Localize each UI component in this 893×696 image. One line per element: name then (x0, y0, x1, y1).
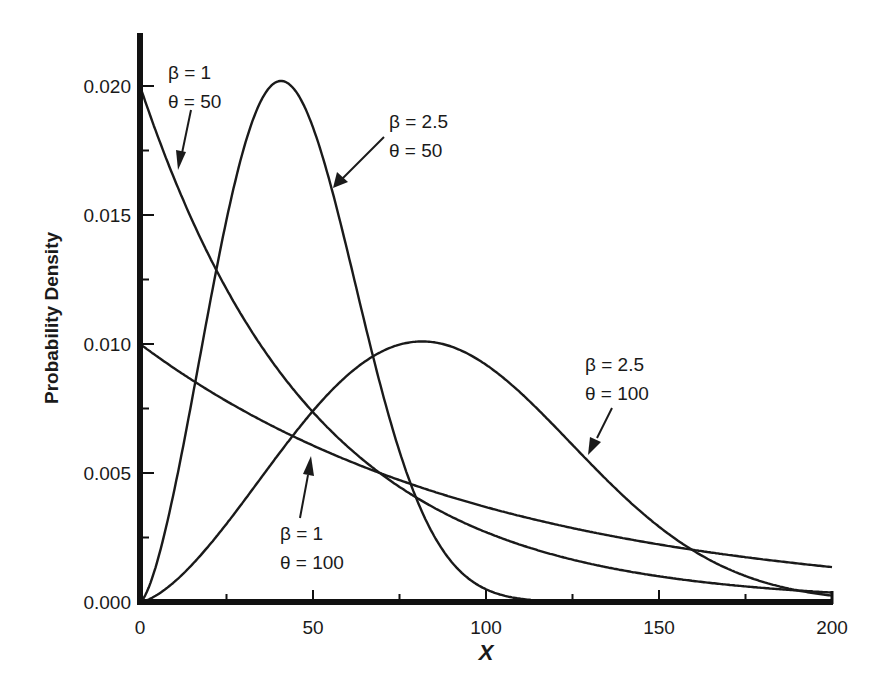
annotation-line2: θ = 50 (168, 91, 221, 112)
annotation-line1: β = 1 (280, 523, 323, 544)
x-axis-label: X (477, 640, 495, 665)
annotation-line1: β = 2.5 (585, 354, 644, 375)
x-tick-label: 150 (643, 617, 675, 638)
arrow-shaft (181, 110, 191, 158)
annotation-beta1-theta100: β = 1 θ = 100 (280, 456, 344, 573)
annotation-beta2.5-theta100: β = 2.5 θ = 100 (585, 354, 649, 455)
weibull-pdf-chart: 050100150200 0.0000.0050.0100.0150.020 X… (0, 0, 893, 696)
arrow-head-icon (588, 437, 601, 455)
arrow-shaft (341, 137, 384, 180)
curves (140, 81, 832, 602)
x-tick-label: 50 (302, 617, 323, 638)
annotation-line2: θ = 50 (389, 140, 442, 161)
x-tick-labels: 050100150200 (135, 617, 848, 638)
annotation-line2: θ = 100 (585, 383, 649, 404)
annotation-line1: β = 2.5 (389, 111, 448, 132)
y-tick-label: 0.020 (83, 76, 131, 97)
annotation-line2: θ = 100 (280, 552, 344, 573)
axes (137, 33, 833, 604)
x-tick-label: 0 (135, 617, 146, 638)
curve-beta1-theta100 (140, 344, 832, 567)
annotation-beta1-theta50: β = 1 θ = 50 (168, 62, 221, 170)
y-tick-label: 0.015 (83, 205, 131, 226)
y-tick-label: 0.005 (83, 463, 131, 484)
arrow-head-icon (176, 150, 186, 170)
arrow-shaft (597, 408, 612, 438)
y-axis-label: Probability Density (41, 232, 62, 405)
curve-beta1-theta50 (140, 86, 832, 593)
curve-beta2.5-theta100 (140, 342, 832, 603)
y-tick-label: 0.000 (83, 592, 131, 613)
curve-beta2.5-theta50 (140, 81, 832, 602)
annotation-line1: β = 1 (168, 62, 211, 83)
arrow-head-icon (303, 456, 314, 476)
arrow-shaft (300, 475, 308, 518)
y-tick-labels: 0.0000.0050.0100.0150.020 (83, 76, 131, 613)
annotation-beta2.5-theta50: β = 2.5 θ = 50 (333, 111, 448, 188)
x-tick-label: 200 (816, 617, 848, 638)
x-tick-label: 100 (470, 617, 502, 638)
y-tick-label: 0.010 (83, 334, 131, 355)
